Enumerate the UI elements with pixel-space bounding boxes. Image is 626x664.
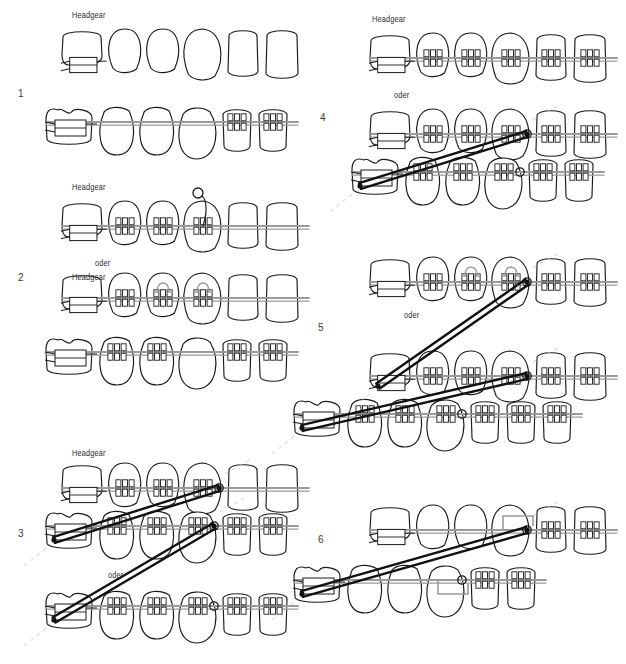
bracket [264, 607, 269, 614]
bracket [235, 123, 240, 130]
bracket [469, 377, 474, 384]
bracket [194, 218, 199, 225]
bracket [555, 283, 560, 290]
bracket [555, 50, 560, 57]
bracket [467, 164, 472, 171]
bracket [167, 290, 172, 297]
bracket [549, 274, 554, 281]
bracket [502, 283, 507, 290]
panel-2 [45, 188, 309, 389]
elastic-anchor [211, 523, 216, 528]
bracket [264, 527, 269, 534]
bracket [555, 126, 560, 133]
bracket [450, 406, 455, 413]
bracket [108, 598, 113, 605]
bracket [202, 598, 207, 605]
bracket [454, 173, 459, 180]
bracket [519, 581, 524, 588]
bracket [469, 50, 474, 57]
bracket [515, 59, 520, 66]
bracket [161, 353, 166, 360]
bracket [424, 135, 429, 142]
bracket [129, 218, 134, 225]
bracket [549, 59, 554, 66]
bracket [581, 135, 586, 142]
bracket [594, 377, 599, 384]
bracket [431, 368, 436, 375]
bracket [167, 218, 172, 225]
bracket [194, 227, 199, 234]
bracket [555, 135, 560, 142]
oder-label: oder [404, 310, 419, 320]
arch-row-upper [61, 29, 298, 80]
bracket [108, 344, 113, 351]
bracket [154, 299, 159, 306]
bracket [542, 274, 547, 281]
bracket [519, 415, 524, 422]
bracket [462, 50, 467, 57]
bracket [424, 377, 429, 384]
bracket [444, 406, 449, 413]
bracket [588, 126, 593, 133]
bracket [542, 135, 547, 142]
bracket [264, 518, 269, 525]
headgear-label: Headgear [72, 182, 105, 192]
bracket [427, 173, 432, 180]
bracket [235, 607, 240, 614]
bracket [116, 299, 121, 306]
bracket [525, 581, 530, 588]
bracket [555, 368, 560, 375]
bracket [129, 489, 134, 496]
bracket [549, 522, 554, 529]
bracket [241, 353, 246, 360]
bracket [549, 135, 554, 142]
tooth [228, 31, 258, 77]
bracket [161, 527, 166, 534]
bracket [235, 598, 240, 605]
bracket [148, 518, 153, 525]
bracket [201, 299, 206, 306]
bracket [277, 607, 282, 614]
bracket [409, 415, 414, 422]
bracket [462, 274, 467, 281]
bracket [129, 227, 134, 234]
bracket [121, 598, 126, 605]
elastic-anchor [524, 279, 529, 284]
bracket [462, 126, 467, 133]
facebow-arm [369, 541, 378, 543]
bracket [228, 518, 233, 525]
bracket [228, 123, 233, 130]
bracket [196, 518, 201, 525]
bracket [476, 581, 481, 588]
guide-line [330, 194, 352, 212]
bracket [502, 50, 507, 57]
guide-line [24, 628, 46, 646]
bracket [123, 480, 128, 487]
bracket [167, 227, 172, 234]
bracket [116, 489, 121, 496]
bracket [594, 531, 599, 538]
bracket [594, 274, 599, 281]
bracket [241, 518, 246, 525]
bracket [277, 598, 282, 605]
bracket [476, 415, 481, 422]
bracket [502, 126, 507, 133]
bracket [450, 415, 455, 422]
bracket [277, 353, 282, 360]
bracket [549, 531, 554, 538]
panel-6 [272, 500, 617, 620]
bracket [155, 353, 160, 360]
bracket [228, 527, 233, 534]
bracket [588, 368, 593, 375]
bracket [437, 377, 442, 384]
bracket [201, 227, 206, 234]
bracket [570, 164, 575, 171]
bracket [116, 290, 121, 297]
bracket [194, 290, 199, 297]
bracket [155, 607, 160, 614]
headgear-label: Headgear [72, 10, 105, 20]
elastic-anchor [216, 485, 221, 490]
elastic-anchor [524, 527, 529, 532]
bracket [121, 527, 126, 534]
bracket [549, 283, 554, 290]
